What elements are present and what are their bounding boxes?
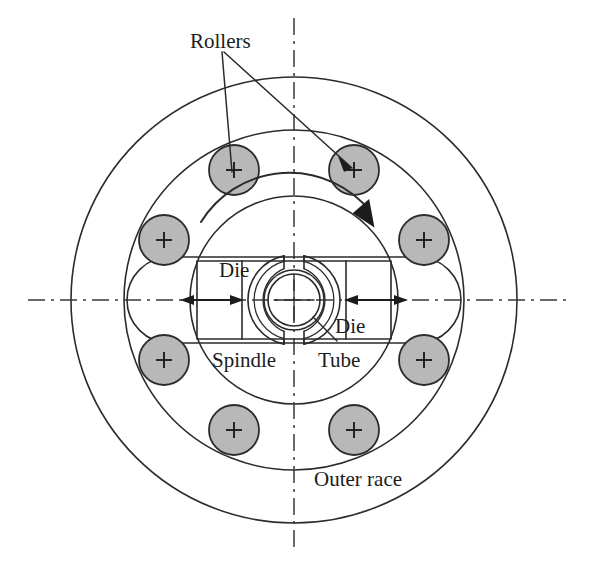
arrowhead-left bbox=[180, 295, 194, 305]
diagram-root: Rollers Die Die Spindle Tube Outer race bbox=[0, 0, 592, 575]
roller bbox=[139, 215, 189, 265]
roller bbox=[399, 335, 449, 385]
roller bbox=[139, 335, 189, 385]
arrowhead-right bbox=[394, 295, 408, 305]
roller bbox=[209, 145, 259, 195]
spindle-label: Spindle bbox=[212, 348, 276, 372]
roller bbox=[329, 405, 379, 455]
tube-center-cross bbox=[274, 280, 314, 320]
rollers-label: Rollers bbox=[190, 29, 251, 53]
outer-race-label: Outer race bbox=[314, 467, 402, 491]
roller bbox=[209, 405, 259, 455]
roller bbox=[399, 215, 449, 265]
bearing-cross-section-figure: Rollers Die Die Spindle Tube Outer race bbox=[0, 0, 592, 575]
die-left-label: Die bbox=[219, 258, 249, 282]
tube-leader-line bbox=[313, 317, 337, 341]
die-right-label: Die bbox=[335, 314, 365, 338]
roller bbox=[329, 145, 379, 195]
tube-label: Tube bbox=[318, 348, 360, 372]
